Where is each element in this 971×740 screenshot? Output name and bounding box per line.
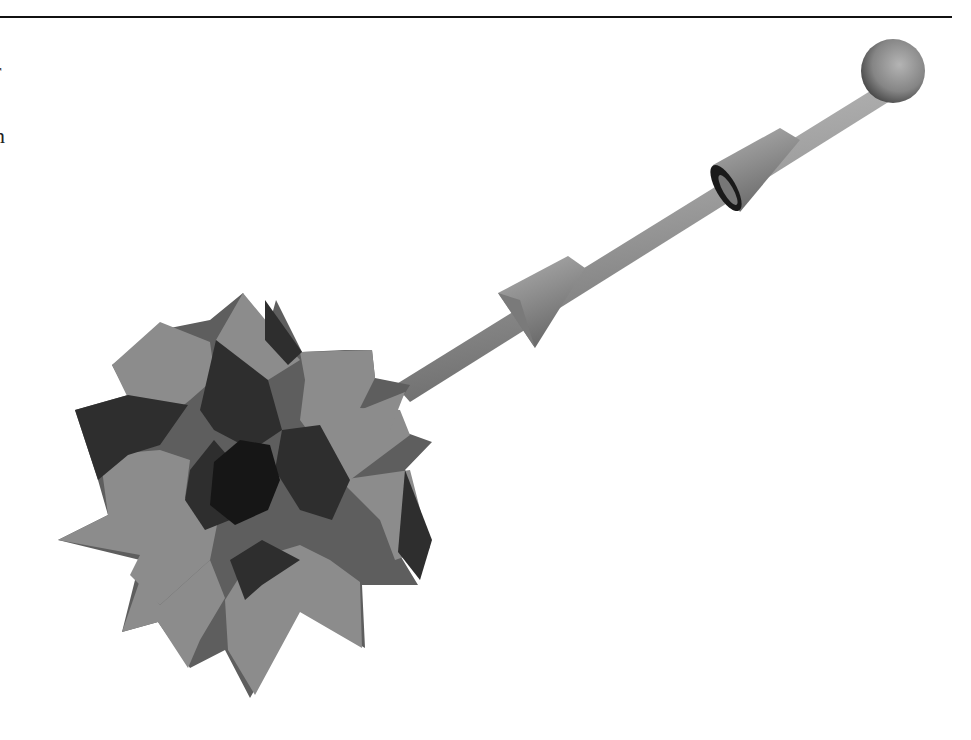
rod — [395, 80, 898, 402]
figure-3d-render — [0, 0, 971, 740]
star-polyhedron — [58, 293, 432, 698]
sphere — [861, 39, 925, 103]
